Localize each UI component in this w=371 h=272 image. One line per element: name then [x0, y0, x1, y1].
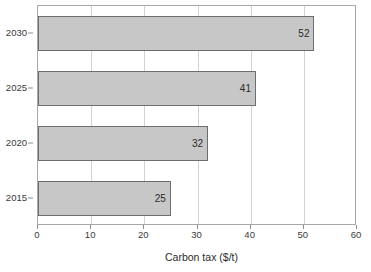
y-tick-label-2025: 2025 — [6, 83, 27, 93]
x-tick-label-60: 60 — [351, 230, 362, 240]
bar-2020: 32 — [38, 126, 208, 161]
bar-value-label-2030: 52 — [298, 29, 309, 39]
x-tick-label-50: 50 — [298, 230, 309, 240]
x-tick-label-0: 0 — [34, 230, 39, 240]
bar-value-label-2020: 32 — [192, 139, 203, 149]
x-axis-title: Carbon tax ($/t) — [0, 252, 371, 263]
bar-value-label-2015: 25 — [155, 194, 166, 204]
y-tick-mark-2020 — [28, 142, 33, 143]
y-tick-label-2020: 2020 — [6, 138, 27, 148]
x-tick-label-40: 40 — [244, 230, 255, 240]
x-tick-label-20: 20 — [138, 230, 149, 240]
x-axis-title-text: Carbon tax ($/t) — [165, 252, 238, 263]
bar-2025: 41 — [38, 71, 256, 106]
y-tick-label-2030: 2030 — [6, 28, 27, 38]
y-tick-mark-2015 — [28, 197, 33, 198]
bar-2030: 52 — [38, 16, 314, 51]
x-tick-label-10: 10 — [85, 230, 96, 240]
bar-chart: 52413225 2030202520202015 0102030405060 … — [0, 0, 371, 272]
bar-2015: 25 — [38, 181, 171, 216]
y-tick-mark-2025 — [28, 87, 33, 88]
y-axis: 2030202520202015 — [0, 5, 33, 225]
plot-area: 52413225 — [37, 5, 356, 225]
y-tick-mark-2030 — [28, 32, 33, 33]
y-tick-label-2015: 2015 — [6, 193, 27, 203]
bars-layer: 52413225 — [38, 6, 355, 224]
bar-value-label-2025: 41 — [240, 84, 251, 94]
x-tick-label-30: 30 — [191, 230, 202, 240]
